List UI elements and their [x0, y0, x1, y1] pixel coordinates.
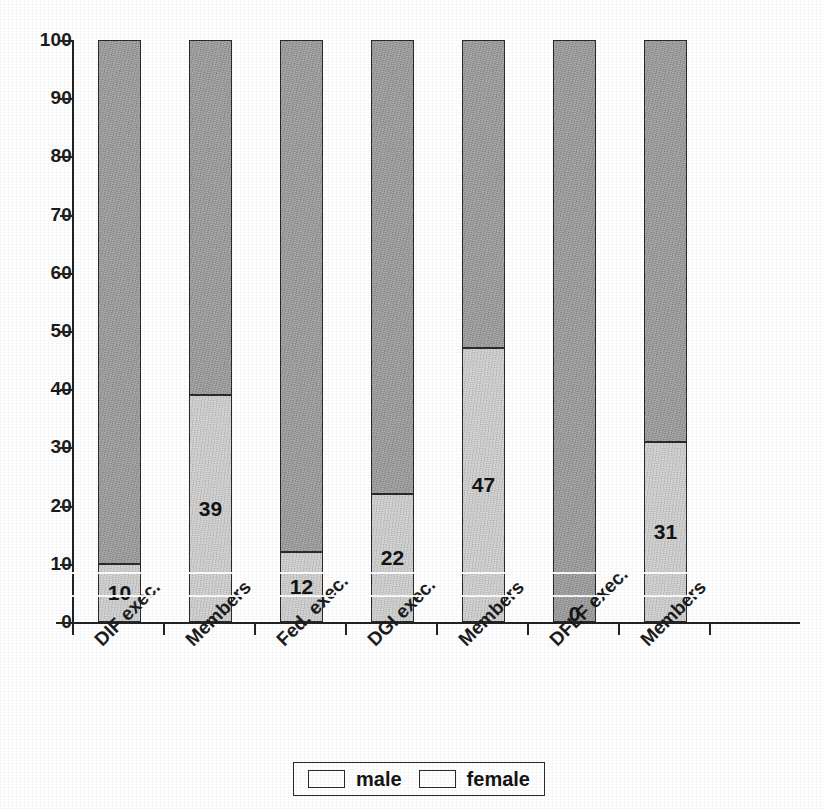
y-axis-tick-mark — [60, 98, 72, 100]
bar-3[interactable] — [280, 40, 323, 622]
y-axis-tick-0: 0 — [0, 622, 72, 624]
bar-value-label: 39 — [189, 498, 232, 519]
bar-segment-male[interactable] — [189, 40, 232, 395]
y-axis-tick-mark — [60, 156, 72, 158]
y-axis-tick-mark — [60, 273, 72, 275]
bar-value-label: 0 — [553, 603, 596, 624]
y-axis-tick-80: 80 — [0, 156, 72, 158]
stacked-bar-chart: 1009080706050403020100 1039122247031 DIF… — [0, 0, 824, 809]
bar-segment-male[interactable] — [462, 40, 505, 348]
y-axis-tick-90: 90 — [0, 98, 72, 100]
y-axis-tick-mark — [60, 331, 72, 333]
bar-value-label: 12 — [280, 576, 323, 597]
y-axis-tick-40: 40 — [0, 389, 72, 391]
bar-value-label: 47 — [462, 474, 505, 495]
y-axis-tick-10: 10 — [0, 564, 72, 566]
y-axis-tick-100: 100 — [0, 40, 72, 42]
bar-value-label: 22 — [371, 547, 414, 568]
x-axis-tick-mark — [436, 622, 438, 635]
y-axis-tick-70: 70 — [0, 215, 72, 217]
y-axis-tick-mark — [60, 389, 72, 391]
y-axis-tick-30: 30 — [0, 447, 72, 449]
bar-value-label: 10 — [98, 582, 141, 603]
legend-swatch-female — [419, 770, 456, 788]
y-axis-line — [72, 40, 74, 624]
bar-value-label: 31 — [644, 521, 687, 542]
legend-label-male: male — [356, 769, 402, 789]
legend-label-female: female — [467, 769, 530, 789]
y-axis-tick-mark — [60, 564, 72, 566]
y-axis-tick-mark — [60, 622, 72, 624]
legend-item-female: female — [419, 769, 530, 789]
bar-segment-male[interactable] — [644, 40, 687, 442]
bar-2[interactable] — [189, 40, 232, 622]
y-axis-tick-50: 50 — [0, 331, 72, 333]
y-axis-tick-20: 20 — [0, 506, 72, 508]
chart-legend: male female — [293, 762, 545, 796]
x-axis-tick-mark — [254, 622, 256, 635]
x-axis-tick-mark — [527, 622, 529, 635]
y-axis-tick-mark — [60, 447, 72, 449]
bar-segment-male[interactable] — [280, 40, 323, 552]
bar-1[interactable] — [98, 40, 141, 622]
y-axis-tick-mark — [60, 40, 72, 42]
y-axis-tick-mark — [60, 215, 72, 217]
legend-item-male: male — [308, 769, 402, 789]
bar-segment-male[interactable] — [553, 40, 596, 622]
legend-swatch-male — [308, 770, 345, 788]
bar-5[interactable] — [462, 40, 505, 622]
bar-segment-male[interactable] — [98, 40, 141, 564]
bar-segment-male[interactable] — [371, 40, 414, 494]
y-axis-tick-mark — [60, 506, 72, 508]
x-axis-tick-mark — [163, 622, 165, 635]
x-axis-tick-mark — [345, 622, 347, 635]
x-axis-tick-mark — [72, 622, 74, 635]
bar-4[interactable] — [371, 40, 414, 622]
x-axis-line — [56, 622, 800, 624]
x-axis-tick-mark — [618, 622, 620, 635]
bar-6[interactable] — [553, 40, 596, 622]
x-axis-tick-mark — [709, 622, 711, 635]
y-axis-tick-60: 60 — [0, 273, 72, 275]
